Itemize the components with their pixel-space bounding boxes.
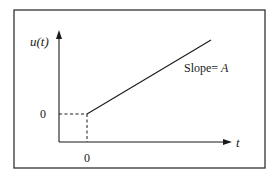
slope-annotation: Slope= A [184, 61, 229, 75]
x-zero-tick-label: 0 [84, 151, 90, 165]
y-axis-label: u(t) [30, 34, 49, 49]
y-zero-tick-label: 0 [40, 107, 46, 121]
slope-text: Slope= [184, 61, 221, 75]
x-axis-label: t [236, 135, 240, 150]
diagram-frame [14, 10, 265, 168]
ramp-function-diagram: u(t) t 0 0 Slope= A [0, 0, 275, 177]
ramp-line [87, 40, 211, 114]
x-axis-arrow-icon [223, 139, 232, 145]
y-axis-arrow-icon [56, 30, 62, 39]
slope-symbol: A [220, 61, 229, 75]
